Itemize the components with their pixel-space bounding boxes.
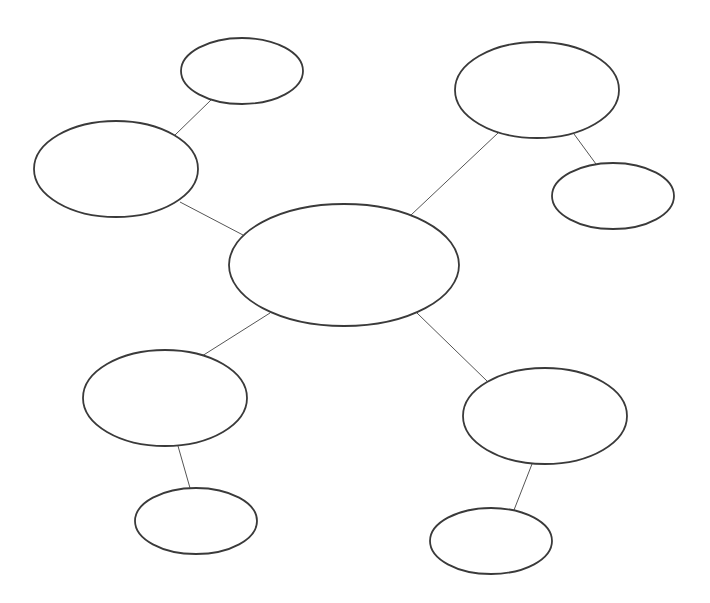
node-center bbox=[229, 204, 459, 326]
node-top-right bbox=[455, 42, 619, 138]
ellipse-bottom-left-child bbox=[135, 488, 257, 554]
ellipse-bottom-right bbox=[463, 368, 627, 464]
node-bottom-left-child bbox=[135, 488, 257, 554]
ellipse-top-left bbox=[181, 38, 303, 104]
node-bottom-right bbox=[463, 368, 627, 464]
ellipse-center bbox=[229, 204, 459, 326]
connector-center-to-bottom-left bbox=[202, 313, 270, 356]
ellipse-bottom-left bbox=[83, 350, 247, 446]
node-right bbox=[552, 163, 674, 229]
node-bottom-right-child bbox=[430, 508, 552, 574]
connector-center-to-top-right bbox=[411, 133, 498, 215]
connector-center-to-left bbox=[180, 202, 243, 235]
node-bottom-left bbox=[83, 350, 247, 446]
ellipse-left bbox=[34, 121, 198, 217]
ellipse-bottom-right-child bbox=[430, 508, 552, 574]
node-top-left bbox=[181, 38, 303, 104]
connector-bottom-right-to-bottom-right-child bbox=[514, 464, 532, 510]
cluster-diagram bbox=[0, 0, 710, 603]
connector-left-to-top-left bbox=[175, 100, 211, 135]
connector-center-to-bottom-right bbox=[417, 313, 487, 381]
ellipse-top-right bbox=[455, 42, 619, 138]
ellipse-right bbox=[552, 163, 674, 229]
connector-bottom-left-to-bottom-left-child bbox=[178, 446, 190, 488]
connector-top-right-to-right bbox=[574, 134, 596, 164]
diagram-nodes bbox=[34, 38, 674, 574]
node-left bbox=[34, 121, 198, 217]
